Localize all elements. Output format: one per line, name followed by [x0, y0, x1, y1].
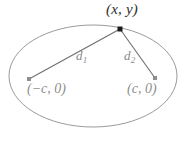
distance-d1-base: d — [76, 48, 83, 63]
distance-d2-base: d — [124, 48, 131, 63]
distance-d1-label: d1 — [76, 49, 87, 65]
distance-d2-label: d2 — [124, 49, 135, 65]
focus-right-point — [153, 76, 157, 80]
distance-d2-subscript: 2 — [131, 55, 136, 65]
vertex-coordinate-label: (x, y) — [106, 2, 138, 17]
focus-left-coordinate-label: (−c, 0) — [27, 82, 66, 96]
diagram-canvas — [0, 0, 182, 142]
segment-d1 — [29, 29, 120, 79]
distance-d1-subscript: 1 — [83, 55, 88, 65]
focus-right-coordinate-label: (c, 0) — [127, 82, 157, 96]
vertex-point — [118, 27, 123, 32]
ellipse-focal-distance-diagram: (x, y) d1 d2 (−c, 0) (c, 0) — [0, 0, 182, 142]
